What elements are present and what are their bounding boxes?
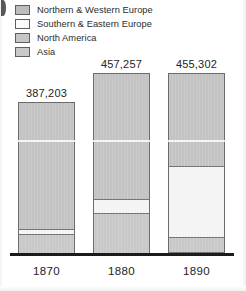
legend-swatch-icon xyxy=(15,19,30,29)
legend-swatch-icon xyxy=(15,5,30,15)
bar-segment[interactable] xyxy=(169,237,224,252)
x-axis-tick-label: 1870 xyxy=(18,265,75,277)
chart-plot-area: 387,203457,257455,302 xyxy=(0,60,246,291)
x-axis-tick-label: 1890 xyxy=(168,265,225,277)
page-corner-mark xyxy=(1,0,6,16)
bar-segment[interactable] xyxy=(94,213,149,253)
legend-item: Northern & Western Europe xyxy=(15,3,195,17)
legend-item: North America xyxy=(15,31,195,45)
bar-stack[interactable] xyxy=(93,73,150,255)
legend-item-label: Northern & Western Europe xyxy=(37,5,153,16)
bar-segment[interactable] xyxy=(19,234,74,253)
bar-total-label: 455,302 xyxy=(176,58,217,70)
x-axis-line xyxy=(10,253,234,256)
bar-total-label: 387,203 xyxy=(26,87,67,99)
legend-item-label: Asia xyxy=(37,47,55,58)
legend-item-label: North America xyxy=(37,33,97,44)
chart-legend: Northern & Western EuropeSouthern & East… xyxy=(15,3,195,59)
bar-segment[interactable] xyxy=(19,103,74,229)
bar-group[interactable]: 455,302 xyxy=(168,73,225,255)
bar-segment[interactable] xyxy=(94,74,149,199)
legend-item-label: Southern & Eastern Europe xyxy=(37,19,152,30)
bar-stack[interactable] xyxy=(18,102,75,255)
bar-segment[interactable] xyxy=(94,199,149,213)
legend-swatch-icon xyxy=(15,47,30,57)
bar-segment[interactable] xyxy=(169,166,224,237)
bar-segment[interactable] xyxy=(169,74,224,166)
bar-group[interactable]: 457,257 xyxy=(93,73,150,255)
legend-item: Asia xyxy=(15,45,195,59)
bar-group[interactable]: 387,203 xyxy=(18,102,75,255)
legend-item: Southern & Eastern Europe xyxy=(15,17,195,31)
bar-stack[interactable] xyxy=(168,73,225,255)
legend-swatch-icon xyxy=(15,33,30,43)
stacked-bar-chart-figure: Northern & Western EuropeSouthern & East… xyxy=(0,0,246,291)
x-axis-tick-label: 1880 xyxy=(93,265,150,277)
bar-total-label: 457,257 xyxy=(101,58,142,70)
